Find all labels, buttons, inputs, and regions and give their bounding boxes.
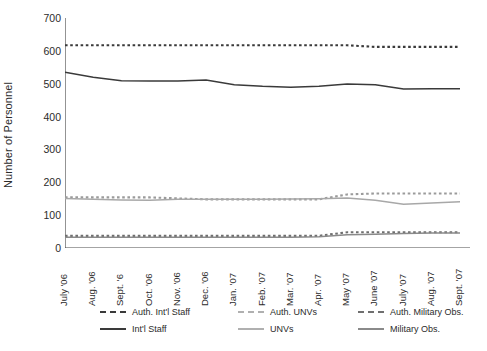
x-tick-label: Sept. '6 [114,274,125,306]
x-tick-label: Dec. '06 [199,271,210,306]
legend-label: Auth. UNVs [270,307,317,317]
plot-svg [65,18,470,248]
series-line-3 [65,198,460,204]
y-tick-label: 400 [27,112,61,122]
x-tick-label: July '07 [397,274,408,306]
x-tick-label: Oct. '06 [143,274,154,306]
x-tick-label: Sept. '07 [453,269,464,306]
series-line-2 [65,193,460,199]
x-tick-label: May '07 [340,273,351,306]
legend-label: Military Obs. [390,324,440,334]
legend-swatch-icon [358,328,384,330]
legend-item: Auth. Int'l Staff [100,307,190,317]
x-tick-label: Apr. '07 [312,274,323,306]
legend-swatch-icon [238,328,264,330]
series-line-1 [65,72,460,89]
x-axis-tick-labels: July '06Aug. '06Sept. '6Oct. '06Nov. '06… [65,250,470,306]
y-tick-label: 0 [27,243,61,253]
series-line-0 [65,45,460,47]
y-tick-label: 300 [27,144,61,154]
legend-label: Auth. Int'l Staff [132,307,190,317]
x-tick-label: Aug. '07 [425,271,436,306]
legend-label: Auth. Military Obs. [390,307,464,317]
x-tick-label: Mar. '07 [284,273,295,307]
legend-item: Military Obs. [358,324,440,334]
legend-swatch-icon [100,328,126,330]
legend-swatch-icon [100,311,126,313]
y-axis-title: Number of Personnel [2,60,18,210]
y-tick-label: 500 [27,79,61,89]
legend-label: UNVs [270,324,294,334]
chart-legend: Auth. Int'l StaffAuth. UNVsAuth. Militar… [100,307,480,343]
x-tick-label: Feb. '07 [256,272,267,306]
x-tick-label: Nov. '06 [171,272,182,306]
x-tick-label: June '07 [368,270,379,306]
legend-swatch-icon [358,311,384,313]
y-axis-tick-labels: 0100200300400500600700 [25,18,61,248]
legend-label: Int'l Staff [132,324,167,334]
x-tick-label: Jan. '07 [227,273,238,306]
legend-item: Auth. Military Obs. [358,307,464,317]
x-tick-label: July '06 [58,274,69,306]
y-tick-label: 100 [27,210,61,220]
legend-item: Int'l Staff [100,324,167,334]
plot-area [65,18,470,248]
y-tick-label: 600 [27,46,61,56]
legend-swatch-icon [238,311,264,313]
x-tick-label: Aug. '06 [86,271,97,306]
chart-figure: Number of Personnel 01002003004005006007… [0,0,487,351]
legend-item: Auth. UNVs [238,307,317,317]
y-tick-label: 200 [27,177,61,187]
y-tick-label: 700 [27,13,61,23]
legend-item: UNVs [238,324,294,334]
